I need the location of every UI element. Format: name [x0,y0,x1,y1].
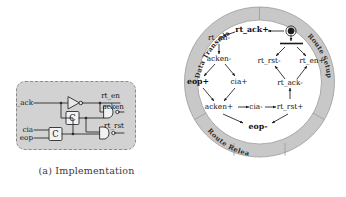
stg-node-rt-ack-plus: rt_ack+ [235,25,268,34]
stg-node-rt-rst-plus: rt_rst+ [277,102,304,111]
stg-node-cia-plus: cia+ [230,77,247,86]
figure-root: C C rt_ack cia eop rt_en acken rt_rst (a… [0,0,346,197]
inverter-bubble [79,101,83,105]
panel-stg: Data Transmission Route Setup Route Rele… [173,0,346,197]
wire-rt-ack-to-c-upper [61,103,66,118]
stg-node-rt-en-plus: rt_en+ [299,56,325,65]
gate-inverter [68,97,79,109]
circuit-schematic: C C rt_ack cia eop rt_en acken rt_rst [16,81,134,148]
input-label-eop: eop [20,133,34,142]
input-label-rt-ack: rt_ack [16,98,34,107]
stg-node-acken-plus: acken+ [205,102,233,111]
stg-node-rt-rst-minus: rt_rst- [258,56,281,65]
stg-node-acken-minus: acken- [207,54,232,63]
stg-node-cia-minus: cia- [249,102,263,111]
nand-rt-rst-bubble [112,131,115,134]
stg-node-rt-ack-minus: rt_ack- [277,78,303,87]
output-label-rt-en: rt_en [101,91,120,100]
stg-node-eop-plus: eop+ [187,77,209,86]
caption-implementation: (a) Implementation [0,165,173,176]
panel-implementation: C C rt_ack cia eop rt_en acken rt_rst (a… [0,0,173,197]
c-element-upper-label: C [69,113,75,123]
output-label-acken: acken [102,102,124,111]
c-element-lower-label: C [52,129,58,139]
initial-token-place [288,28,294,34]
output-label-rt-rst: rt_rst [104,121,124,130]
wire-c-upper-to-nand-rst [86,118,100,132]
stg-node-eop-minus: eop- [249,122,268,131]
stg-node-rt-en-minus: rt_en- [208,33,230,42]
stg-diagram: Data Transmission Route Setup Route Rele… [173,0,346,165]
